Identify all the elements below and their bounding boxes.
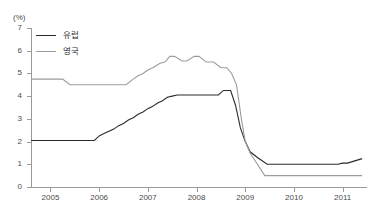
chart-legend: 유럽영국 — [36, 27, 79, 59]
x-tick — [245, 188, 246, 192]
legend-item: 영국 — [36, 43, 79, 59]
x-tick — [99, 188, 100, 192]
x-tick-label: 2007 — [128, 193, 168, 202]
x-tick-label: 2008 — [177, 193, 217, 202]
plot-area — [31, 28, 367, 187]
series-line — [31, 56, 362, 175]
x-tick — [148, 188, 149, 192]
x-tick — [197, 188, 198, 192]
x-tick-label: 2005 — [30, 193, 70, 202]
legend-label: 유럽 — [63, 31, 79, 40]
x-tick — [343, 188, 344, 192]
y-tick-label: 6 — [0, 47, 22, 55]
y-tick-label: 1 — [0, 160, 22, 168]
legend-label: 영국 — [63, 47, 79, 56]
legend-color-swatch — [36, 35, 56, 36]
x-tick — [294, 188, 295, 192]
y-tick-label: 2 — [0, 138, 22, 146]
x-tick-label: 2010 — [274, 193, 314, 202]
x-tick — [50, 188, 51, 192]
x-axis-line — [31, 187, 367, 188]
y-tick-label: 4 — [0, 92, 22, 100]
series-line — [31, 90, 362, 164]
x-tick-label: 2011 — [323, 193, 363, 202]
x-tick-label: 2009 — [225, 193, 265, 202]
y-tick-label: 0 — [0, 183, 22, 191]
y-tick-label: 5 — [0, 69, 22, 77]
legend-item: 유럽 — [36, 27, 79, 43]
y-axis-unit-label: (%) — [13, 14, 25, 22]
x-tick-label: 2006 — [79, 193, 119, 202]
series-lines — [31, 28, 367, 187]
legend-color-swatch — [36, 51, 56, 52]
y-tick-label: 3 — [0, 115, 22, 123]
line-chart: (%) 76543210 200520062007200820092010201… — [0, 0, 384, 215]
y-tick-label: 7 — [0, 24, 22, 32]
y-tick — [27, 187, 31, 188]
